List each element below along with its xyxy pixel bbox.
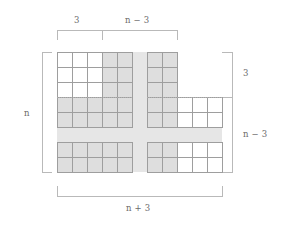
dotted-row-separator-left (57, 97, 132, 98)
grid-cell (87, 82, 103, 98)
grid-cell (192, 157, 208, 173)
grid-cell (72, 157, 88, 173)
grid-cell (192, 142, 208, 158)
grid-cell (162, 97, 178, 113)
left-brace-tick-top (42, 52, 52, 53)
right-brace-tick-top (222, 52, 232, 53)
grid-cell (117, 67, 133, 83)
grid-cell (162, 82, 178, 98)
grid-cell (147, 97, 163, 113)
bottom-brace-tick-left (57, 186, 58, 196)
grid-cell (87, 157, 103, 173)
grid-cell (87, 67, 103, 83)
grid-cell (72, 67, 88, 83)
right-brace-tick-bottom (222, 172, 232, 173)
grid-cell (102, 142, 118, 158)
grid-cell (117, 142, 133, 158)
grid-cell (87, 52, 103, 68)
grid-cell (72, 82, 88, 98)
grid-cell (57, 67, 73, 83)
grid-cell (87, 142, 103, 158)
grid-cell (162, 157, 178, 173)
grid-cell (207, 112, 223, 128)
grid-cell (162, 67, 178, 83)
grid-cell (87, 97, 103, 113)
grid-cell (207, 157, 223, 173)
grid-cell (72, 112, 88, 128)
grid-cell (72, 142, 88, 158)
grid-cell (147, 52, 163, 68)
grid-cell (102, 52, 118, 68)
grid-cell (147, 112, 163, 128)
grid-cell (57, 142, 73, 158)
grid-cell (117, 97, 133, 113)
grid-cell (117, 112, 133, 128)
grid-cell (102, 67, 118, 83)
left-brace-tick-bottom (42, 172, 52, 173)
left-brace-rail (42, 52, 43, 173)
grid-cell (177, 157, 193, 173)
grid-cell (72, 52, 88, 68)
grid-cell (177, 142, 193, 158)
grid-cell (177, 112, 193, 128)
right-brace-rail (232, 52, 233, 173)
grid-cell (207, 142, 223, 158)
grid-cell (192, 112, 208, 128)
grid-cell (57, 97, 73, 113)
grid-cell (192, 97, 208, 113)
label-top-left: 3 (74, 15, 80, 25)
label-right-top: 3 (243, 68, 249, 78)
grid-cell (162, 142, 178, 158)
grid-cell (102, 112, 118, 128)
grid-cell (57, 82, 73, 98)
top-brace-tick-right (177, 30, 178, 40)
label-left: n (24, 108, 30, 118)
top-brace-tick-left (57, 30, 58, 40)
dotted-row-separator-right (147, 97, 222, 98)
grid-cell (117, 157, 133, 173)
bottom-brace-rail (57, 196, 223, 197)
label-bottom: n + 3 (126, 203, 150, 213)
grid-cell (102, 157, 118, 173)
grid-cell (147, 157, 163, 173)
grid-cell (57, 112, 73, 128)
top-brace-tick-mid (102, 30, 103, 40)
label-right-bottom: n − 3 (243, 129, 267, 139)
label-top-right: n − 3 (125, 15, 149, 25)
grid-cell (102, 97, 118, 113)
grid-cell (57, 52, 73, 68)
top-brace-rail (57, 30, 178, 31)
grid-cell (177, 97, 193, 113)
bottom-brace-tick-right (222, 186, 223, 196)
grid-cell (147, 67, 163, 83)
grid-cell (162, 52, 178, 68)
grid-cell (87, 112, 103, 128)
grid-cell (72, 97, 88, 113)
right-brace-tick-mid (222, 97, 232, 98)
grid-cell (147, 82, 163, 98)
grid-cell (102, 82, 118, 98)
figure-canvas: 3 n − 3 n 3 n − 3 n + 3 (0, 0, 287, 229)
grid-cell (57, 157, 73, 173)
grid-cell (162, 112, 178, 128)
grid-cell (117, 82, 133, 98)
grid-cell (117, 52, 133, 68)
grid-cell (207, 97, 223, 113)
grid-cell (147, 142, 163, 158)
